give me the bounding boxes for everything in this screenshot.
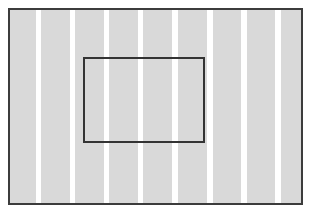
inner-rectangle xyxy=(83,57,205,143)
stripe-7 xyxy=(213,10,241,203)
stripe-8 xyxy=(247,10,275,203)
diagram-canvas xyxy=(0,0,309,210)
stripe-1 xyxy=(10,10,36,203)
stripe-2 xyxy=(41,10,70,203)
stripe-9 xyxy=(281,10,303,203)
